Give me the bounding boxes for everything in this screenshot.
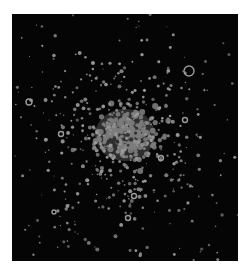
bright-star xyxy=(183,118,188,123)
star-field-image xyxy=(12,14,238,261)
star-cluster xyxy=(12,14,238,261)
bright-star xyxy=(184,66,194,76)
bright-star xyxy=(52,210,56,214)
bright-star xyxy=(59,132,64,137)
bright-star xyxy=(126,216,131,221)
bright-star xyxy=(132,194,137,199)
